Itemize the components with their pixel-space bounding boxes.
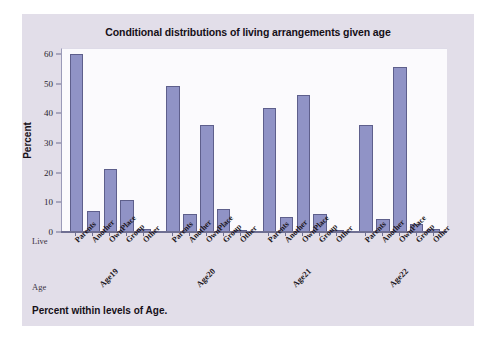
group-axis-caption: Age <box>32 282 46 292</box>
bars-container <box>62 49 447 232</box>
y-tick-label: 60 <box>44 49 53 59</box>
bar <box>70 54 84 232</box>
group-tick-label: Age21 <box>290 266 313 289</box>
bar <box>393 67 407 232</box>
y-tick-label: 10 <box>44 197 53 207</box>
y-tick-label: 30 <box>44 138 53 148</box>
bar <box>263 108 277 232</box>
chart-title: Conditional distributions of living arra… <box>22 26 474 38</box>
chart-panel: Conditional distributions of living arra… <box>22 14 474 326</box>
group-tick-label: Age19 <box>97 266 120 289</box>
group-tick-label: Age20 <box>194 266 217 289</box>
group-tick-label: Age22 <box>387 266 410 289</box>
y-axis: 0102030405060 <box>22 48 61 232</box>
bar <box>166 86 180 232</box>
chart-footnote: Percent within levels of Age. <box>32 305 167 316</box>
y-tick-label: 40 <box>44 108 53 118</box>
plot-area <box>61 48 447 232</box>
y-tick-label: 50 <box>44 79 53 89</box>
bar <box>297 95 311 232</box>
bar <box>359 125 373 232</box>
y-tick-label: 0 <box>49 227 54 237</box>
chart-screenshot: Conditional distributions of living arra… <box>0 0 493 340</box>
category-axis-caption: Live <box>32 236 48 246</box>
y-tick-label: 20 <box>44 168 53 178</box>
bar <box>200 125 214 232</box>
